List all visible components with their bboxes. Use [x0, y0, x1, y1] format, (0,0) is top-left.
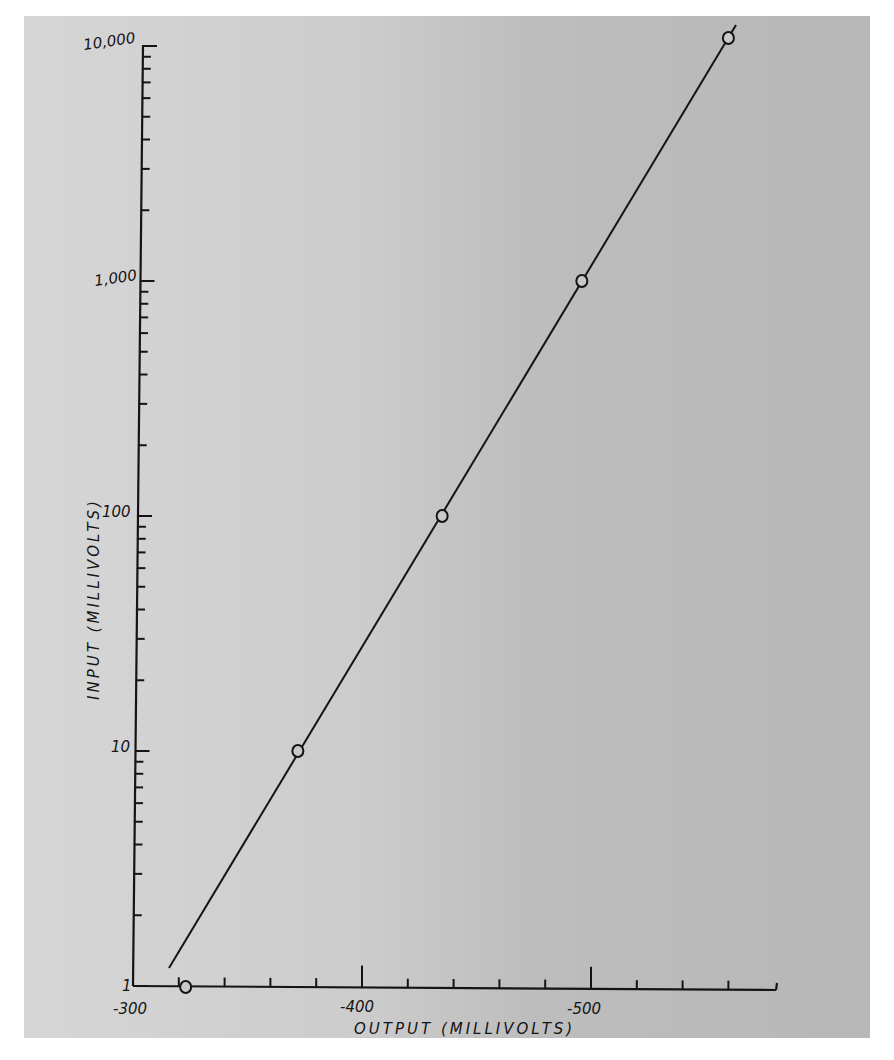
y-axis-title: INPUT (MILLIVOLTS) — [85, 498, 103, 700]
x-axis — [133, 983, 777, 990]
data-point-open-circle — [437, 510, 448, 522]
data-point-open-circle — [576, 275, 587, 287]
data-point-open-circle — [180, 981, 191, 993]
data-point-open-circle — [292, 745, 303, 757]
x-tick-label-400: -400 — [340, 998, 374, 1016]
y-tick-label-10000: 10,000 — [82, 29, 136, 54]
fit-line — [169, 25, 736, 968]
x-tick-label-500: -500 — [567, 1000, 601, 1018]
y-tick-label-10: 10 — [111, 738, 130, 756]
data-point-open-circle — [723, 32, 734, 44]
y-tick-label-1000: 1,000 — [93, 266, 138, 290]
x-tick-label-300: -300 — [113, 1000, 147, 1018]
log-linear-plot: 10,000 1,000 100 10 1 -300 -400 -500 OUT… — [0, 0, 894, 1060]
data-points — [180, 32, 734, 993]
y-tick-label-1: 1 — [122, 977, 132, 995]
y-tick-label-100: 100 — [102, 503, 131, 521]
x-axis-title: OUTPUT (MILLIVOLTS) — [354, 1020, 575, 1038]
y-axis-ticks — [133, 46, 157, 986]
